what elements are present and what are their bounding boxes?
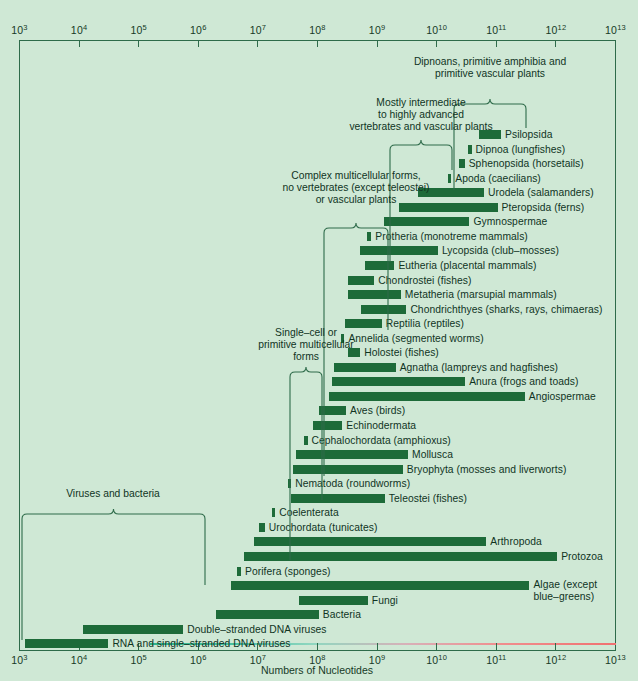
range-bar: [360, 246, 438, 255]
range-bar: [361, 305, 406, 314]
range-bar: [83, 625, 184, 634]
bar-label: Anura (frogs and toads): [469, 376, 578, 387]
bar-label: Urochordata (tunicates): [269, 522, 378, 533]
bar-label: Protozoa: [561, 551, 603, 562]
group-caption-line: or vascular plants: [282, 194, 429, 206]
bar-row: Double–stranded DNA viruses: [0, 625, 638, 636]
bar-row: Agnatha (lampreys and hagfishes): [0, 363, 638, 374]
top-tick-label: 108: [309, 24, 325, 36]
bar-label: Gymnospermae: [473, 216, 547, 227]
group-caption: Single–cell orprimitive multicellularfor…: [258, 327, 354, 363]
bar-label: Arthropoda: [490, 536, 541, 547]
bar-row: Protozoa: [0, 552, 638, 563]
range-bar: [237, 567, 241, 576]
bottom-tick-label: 1011: [486, 654, 506, 666]
range-bar: [293, 465, 403, 474]
bar-label: Angiospermae: [529, 391, 596, 402]
bottom-tick-label: 103: [11, 654, 27, 666]
bar-row: Gymnospermae: [0, 217, 638, 228]
range-bar: [288, 479, 291, 488]
range-bar: [313, 421, 342, 430]
group-caption-line: Viruses and bacteria: [66, 488, 160, 500]
group-caption: Complex multicellular forms,no vertebrat…: [282, 170, 429, 206]
bar-label: Eutheria (placental mammals): [398, 260, 536, 271]
bar-label: Urodela (salamanders): [488, 187, 594, 198]
bar-label: Chondrichthyes (sharks, rays, chimaeras): [410, 304, 602, 315]
top-tick-label: 109: [369, 24, 385, 36]
bar-label: Sphenopsida (horsetails): [469, 158, 584, 169]
range-bar: [348, 276, 375, 285]
top-axis-tick: [138, 40, 139, 47]
bar-row: Fungi: [0, 596, 638, 607]
bar-label: Dipnoa (lungfishes): [476, 144, 566, 155]
top-axis-tick: [317, 40, 318, 47]
group-caption-line: Complex multicellular forms,: [282, 170, 429, 182]
bar-row: Chondrichthyes (sharks, rays, chimaeras): [0, 305, 638, 316]
group-caption-line: vertebrates and vascular plants: [349, 121, 492, 133]
bar-row: Bryophyta (mosses and liverworts): [0, 465, 638, 476]
range-bar: [319, 406, 346, 415]
genome-size-chart: 1031041051061071081091010101110121013 10…: [0, 0, 638, 681]
bar-row: Echinodermata: [0, 421, 638, 432]
bottom-tick-label: 1013: [605, 654, 626, 666]
bar-label: Chondrostei (fishes): [378, 275, 471, 286]
bar-row: Algae (exceptblue–greens): [0, 581, 638, 592]
range-bar: [244, 552, 557, 561]
group-caption: Dipnoans, primitive amphibia andprimitiv…: [414, 56, 566, 80]
x-axis-title: Numbers of Nucleotides: [261, 664, 373, 676]
bar-row: Eutheria (placental mammals): [0, 261, 638, 272]
range-bar: [459, 159, 464, 168]
bar-label: Mollusca: [412, 449, 453, 460]
group-caption-line: Dipnoans, primitive amphibia and: [414, 56, 566, 68]
group-caption: Mostly intermediateto highly advancedver…: [349, 97, 492, 133]
bar-label: Coelenterata: [279, 507, 339, 518]
range-bar: [216, 610, 319, 619]
bar-row: Chondrostei (fishes): [0, 276, 638, 287]
range-bar: [25, 639, 108, 648]
bar-row: Psilopsida: [0, 130, 638, 141]
bar-row: Dipnoa (lungfishes): [0, 145, 638, 156]
top-tick-label: 1012: [545, 24, 566, 36]
bar-row: Coelenterata: [0, 508, 638, 519]
range-bar: [259, 523, 265, 532]
top-tick-label: 1010: [426, 24, 447, 36]
bar-label: Holostei (fishes): [364, 347, 439, 358]
group-caption-line: no vertebrates (except teleostei): [282, 182, 429, 194]
range-bar: [254, 537, 487, 546]
group-caption: Viruses and bacteria: [66, 488, 160, 500]
top-axis-tick: [79, 40, 80, 47]
top-tick-label: 106: [190, 24, 206, 36]
bar-label: Teleostei (fishes): [389, 493, 467, 504]
group-caption-line: primitive vascular plants: [414, 68, 566, 80]
bar-label: Bryophyta (mosses and liverworts): [407, 464, 567, 475]
bottom-tick-label: 106: [190, 654, 206, 666]
bar-label: Bacteria: [323, 609, 361, 620]
bottom-tick-label: 1010: [426, 654, 447, 666]
bar-label: Reptilia (reptiles): [386, 318, 464, 329]
bar-row: Metatheria (marsupial mammals): [0, 290, 638, 301]
bar-row: Sphenopsida (horsetails): [0, 159, 638, 170]
group-caption-line: to highly advanced: [349, 109, 492, 121]
bar-label: Lycopsida (club–mosses): [442, 245, 559, 256]
range-bar: [334, 363, 396, 372]
top-axis-tick: [496, 40, 497, 47]
range-bar: [468, 145, 472, 154]
range-bar: [291, 494, 385, 503]
top-axis-tick: [377, 40, 378, 47]
bar-label: Annelida (segmented worms): [348, 333, 483, 344]
bar-label: Pteropsida (ferns): [502, 202, 585, 213]
range-bar: [304, 436, 307, 445]
range-bar: [367, 232, 371, 241]
group-caption-line: Single–cell or: [258, 327, 354, 339]
top-axis-tick: [257, 40, 258, 47]
top-tick-label: 105: [130, 24, 146, 36]
bar-row: Cephalochordata (amphioxus): [0, 436, 638, 447]
bar-label: Psilopsida: [505, 129, 552, 140]
range-bar: [365, 261, 394, 270]
group-caption-line: primitive multicellular: [258, 339, 354, 351]
range-bar: [332, 377, 465, 386]
range-bar: [384, 217, 470, 226]
range-bar: [448, 174, 451, 183]
group-caption-line: Mostly intermediate: [349, 97, 492, 109]
bar-label: Metatheria (marsupial mammals): [405, 289, 557, 300]
